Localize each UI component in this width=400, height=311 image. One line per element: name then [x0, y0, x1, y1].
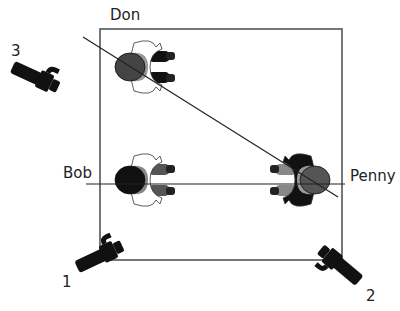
camera-label-2: 2 [366, 289, 376, 304]
camera-label-3: 3 [11, 44, 21, 59]
camera-label-1: 1 [62, 275, 72, 290]
diagram-canvas [0, 0, 400, 311]
actor-figure-bob [115, 154, 175, 207]
actor-figure-don [115, 41, 175, 94]
actor-label-don: Don [110, 8, 140, 23]
actor-figure-penny [270, 154, 330, 207]
camera-2-icon [310, 242, 365, 294]
camera-1-icon [70, 230, 126, 275]
actors [115, 41, 330, 207]
camera-blocking-diagram: Don Bob Penny 1 2 3 [0, 0, 400, 311]
actor-label-penny: Penny [350, 169, 396, 184]
actor-label-bob: Bob [63, 166, 92, 181]
